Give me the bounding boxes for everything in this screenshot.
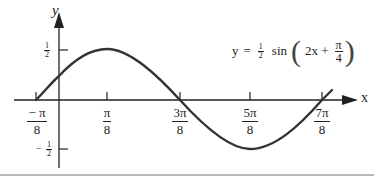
right-paren-icon: ) [345, 36, 355, 66]
equation-label: y = 1 2 sin ( 2x + π 4 ) [232, 36, 355, 66]
equation-func: sin [272, 43, 287, 59]
x-axis-label: x [361, 90, 368, 106]
y-tick-label-neg-sign: − [36, 143, 42, 154]
left-paren-icon: ( [291, 36, 301, 66]
bottom-divider [0, 174, 374, 176]
x-tick-label-3pi-8: 3π 8 [168, 106, 192, 137]
x-axis-arrow-icon [342, 95, 358, 105]
equation-coefficient: 1 2 [258, 43, 264, 60]
x-tick-label-5pi-8: 5π 8 [238, 106, 262, 137]
plot-area [0, 0, 374, 178]
y-axis-label: y [52, 2, 59, 19]
x-tick-label-pi-8: π 8 [97, 106, 117, 137]
x-tick-label-neg-pi-8: − π 8 [23, 106, 51, 137]
equation-phase: π 4 [335, 39, 343, 64]
y-tick-label-half: 1 2 [44, 42, 50, 59]
equation-equals: = [244, 43, 251, 59]
y-tick-label-neg-half: 1 2 [46, 141, 52, 158]
x-tick-label-7pi-8: 7π 8 [310, 106, 334, 137]
equation-inner: 2x + [305, 43, 329, 59]
equation-lhs: y [232, 43, 239, 59]
